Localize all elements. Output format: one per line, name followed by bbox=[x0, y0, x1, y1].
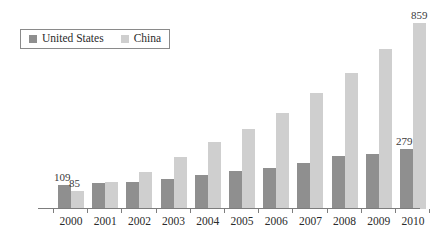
x-axis-tick-2009 bbox=[361, 209, 362, 213]
x-axis-label-2010: 2010 bbox=[393, 216, 433, 228]
bar-group bbox=[126, 8, 152, 209]
x-axis-tick-2005 bbox=[224, 209, 225, 213]
bar-united-states-2006 bbox=[263, 168, 276, 209]
bar-china-2002 bbox=[139, 172, 152, 209]
bar-china-2004 bbox=[208, 142, 221, 209]
x-axis-tick-2010 bbox=[395, 209, 396, 213]
bar-united-states-2008 bbox=[332, 156, 345, 209]
bar-china-2005 bbox=[242, 129, 255, 209]
value-label-china-2010: 859 bbox=[411, 10, 428, 21]
bar-group bbox=[297, 8, 323, 209]
x-axis-tick-2007 bbox=[292, 209, 293, 213]
x-axis-tick-2003 bbox=[156, 209, 157, 213]
bar-china-2001 bbox=[105, 182, 118, 209]
bar-group: 279859 bbox=[400, 8, 426, 209]
bar-china-2003 bbox=[174, 157, 187, 209]
x-axis-tick-2002 bbox=[121, 209, 122, 213]
square-swatch-icon-united-states bbox=[29, 35, 37, 43]
bar-group: 10985 bbox=[58, 8, 84, 209]
bar-china-2009 bbox=[379, 49, 392, 209]
value-label-united-states-2010: 279 bbox=[396, 136, 413, 147]
value-label-china-2000: 85 bbox=[69, 178, 80, 189]
bar-china-2000 bbox=[71, 191, 84, 209]
bar-united-states-2007 bbox=[297, 163, 310, 209]
x-axis-tick-2004 bbox=[190, 209, 191, 213]
bar-china-2006 bbox=[276, 113, 289, 209]
bar-united-states-2004 bbox=[195, 175, 208, 209]
bar-united-states-2001 bbox=[92, 183, 105, 209]
bar-united-states-2010 bbox=[400, 149, 413, 209]
bar-group bbox=[263, 8, 289, 209]
x-axis-tick-2006 bbox=[258, 209, 259, 213]
bar-group bbox=[366, 8, 392, 209]
bar-china-2008 bbox=[345, 73, 358, 209]
x-axis-tick-2000 bbox=[53, 209, 54, 213]
bar-united-states-2009 bbox=[366, 154, 379, 209]
x-axis-tick-2008 bbox=[327, 209, 328, 213]
bar-group bbox=[229, 8, 255, 209]
bar-group bbox=[92, 8, 118, 209]
bar-china-2010 bbox=[413, 23, 426, 209]
plot-area: 10985279859 bbox=[40, 8, 418, 209]
x-axis-tick-end bbox=[429, 209, 430, 213]
bar-china-2007 bbox=[310, 93, 323, 209]
bar-group bbox=[332, 8, 358, 209]
bar-united-states-2003 bbox=[161, 179, 174, 209]
bar-united-states-2002 bbox=[126, 182, 139, 209]
bar-united-states-2005 bbox=[229, 171, 242, 209]
x-axis-tick-2001 bbox=[87, 209, 88, 213]
bar-chart: United States China 10985279859 20002001… bbox=[0, 0, 436, 242]
bar-united-states-2000 bbox=[58, 185, 71, 209]
bar-group bbox=[161, 8, 187, 209]
bar-group bbox=[195, 8, 221, 209]
x-axis-line bbox=[38, 208, 420, 209]
